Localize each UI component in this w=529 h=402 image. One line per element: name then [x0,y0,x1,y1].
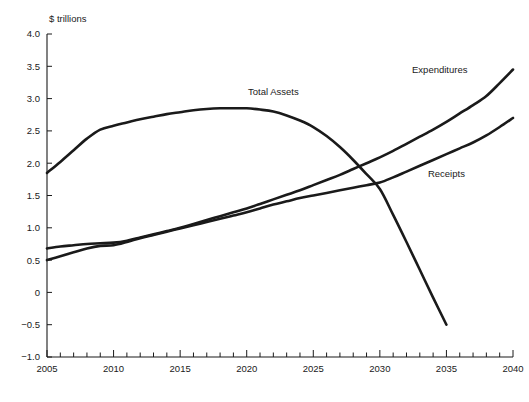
y-tick-label: −0.5 [21,319,40,330]
x-axis-ticks: 20052010201520202025203020352040 [36,350,523,374]
x-tick-label: 2015 [170,363,191,374]
x-tick-label: 2040 [502,363,523,374]
y-axis-unit-label: $ trillions [49,13,87,24]
x-tick-label: 2005 [36,363,57,374]
figure-container: −1.0−0.500.51.01.52.02.53.03.54.0 200520… [0,0,529,402]
x-tick-label: 2020 [236,363,257,374]
series-line-receipts [47,118,513,260]
x-tick-label: 2030 [369,363,390,374]
line-chart: −1.0−0.500.51.01.52.02.53.03.54.0 200520… [0,0,529,402]
x-tick-label: 2025 [303,363,324,374]
y-tick-label: 2.0 [27,158,40,169]
data-series-group [47,70,513,325]
y-tick-label: 3.5 [27,61,40,72]
y-tick-label: 2.5 [27,125,40,136]
y-tick-label: 1.5 [27,190,40,201]
y-tick-label: 4.0 [27,28,40,39]
series-label-receipts: Receipts [428,168,465,179]
x-tick-label: 2035 [436,363,457,374]
y-tick-label: −1.0 [21,351,40,362]
series-label-total-assets: Total Assets [248,86,299,97]
y-tick-label: 0.5 [27,255,40,266]
x-tick-label: 2010 [103,363,124,374]
series-line-total-assets [47,108,446,325]
y-tick-label: 1.0 [27,222,40,233]
y-tick-label: 3.0 [27,93,40,104]
series-label-expenditures: Expenditures [412,64,468,75]
y-tick-label: 0 [35,287,40,298]
series-annotations-group: Total AssetsExpendituresReceipts [248,64,468,180]
